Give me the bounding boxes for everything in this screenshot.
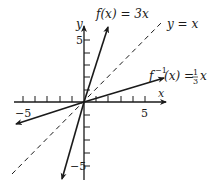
x-tick-label-neg5: −5: [15, 107, 31, 120]
identity-label: y = x: [166, 17, 198, 31]
y-axis-label: y: [75, 17, 83, 31]
inverse-label-den: 3: [193, 77, 198, 86]
x-tick-label-5: 5: [141, 107, 148, 120]
y-axis-ticks: [84, 40, 90, 166]
y-axis: [84, 26, 90, 180]
f-label: f(x) = 3x: [95, 7, 149, 21]
x-axis: [14, 96, 166, 102]
inverse-label-x: x: [200, 69, 207, 83]
y-tick-label-neg5: −5: [70, 160, 86, 173]
x-axis-label: x: [158, 87, 165, 100]
inverse-label: f −1 (x) = 1 3 x: [148, 66, 207, 86]
y-tick-label-5: 5: [76, 34, 83, 47]
inverse-label-rest: (x) =: [164, 69, 194, 83]
function-inverse-graph: y x −5 5 5 −5 f(x) = 3x y = x f −1 (x) =…: [0, 0, 217, 188]
chart-canvas: y x −5 5 5 −5 f(x) = 3x y = x f −1 (x) =…: [0, 0, 217, 188]
inverse-label-num: 1: [193, 68, 198, 77]
